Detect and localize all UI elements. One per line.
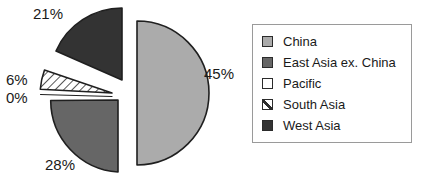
- legend-item-china[interactable]: China: [253, 31, 411, 52]
- legend-label-east-asia-ex-china: East Asia ex. China: [283, 56, 396, 69]
- slice-label-west-asia: 21%: [33, 6, 63, 21]
- legend-item-west-asia[interactable]: West Asia: [253, 115, 411, 136]
- slice-label-east-asia-ex-china: 28%: [45, 157, 75, 172]
- slice-label-pacific: 0%: [6, 90, 28, 105]
- legend-swatch-west-asia: [262, 120, 273, 131]
- pie-slice-pacific[interactable]: [41, 95, 113, 97]
- legend-item-south-asia[interactable]: South Asia: [253, 94, 411, 115]
- legend-item-east-asia-ex-china[interactable]: East Asia ex. China: [253, 52, 411, 73]
- legend-swatch-south-asia: [262, 99, 273, 110]
- legend-label-west-asia: West Asia: [283, 119, 341, 132]
- legend-swatch-pacific: [262, 78, 273, 89]
- pie-svg: [0, 0, 250, 183]
- slice-label-china: 45%: [204, 66, 234, 81]
- legend-label-pacific: Pacific: [283, 77, 321, 90]
- legend-item-pacific[interactable]: Pacific: [253, 73, 411, 94]
- pie-slice-west-asia[interactable]: [56, 8, 122, 80]
- chart-legend: China East Asia ex. China Pacific South …: [252, 24, 412, 143]
- legend-label-china: China: [283, 35, 317, 48]
- pie-slice-south-asia[interactable]: [40, 70, 112, 93]
- legend-swatch-east-asia-ex-china: [262, 57, 273, 68]
- legend-label-south-asia: South Asia: [283, 98, 345, 111]
- pie-slice-china[interactable]: [137, 21, 209, 165]
- pie-plot-area: 21% 45% 28% 6% 0%: [0, 0, 250, 183]
- pie-chart: 21% 45% 28% 6% 0% China East Asia ex. Ch…: [0, 0, 433, 183]
- legend-swatch-china: [262, 36, 273, 47]
- slice-label-south-asia: 6%: [6, 72, 28, 87]
